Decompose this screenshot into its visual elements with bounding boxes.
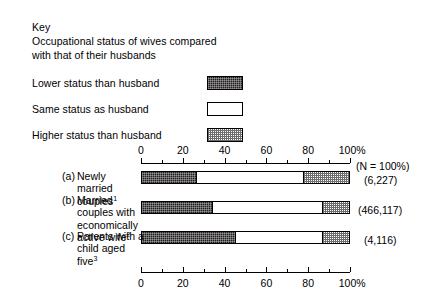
bar-segment — [142, 202, 212, 213]
axis-major-tick — [350, 267, 351, 272]
axis-line — [141, 272, 350, 273]
axis-major-tick — [141, 267, 142, 272]
axis-minor-tick — [162, 269, 163, 272]
axis-minor-tick — [329, 160, 330, 163]
bar-segment — [196, 172, 304, 183]
bar-segment — [322, 202, 349, 213]
axis-minor-tick — [246, 160, 247, 163]
row-label-text: Parents with a child aged five — [77, 230, 144, 267]
row-marker: (c) — [62, 230, 74, 242]
bar-row-b — [141, 201, 350, 214]
axis-major-tick — [266, 267, 267, 272]
axis-tick-label: 40 — [219, 144, 231, 156]
axis-major-tick — [308, 267, 309, 272]
bar-segment — [322, 232, 349, 243]
axis-major-tick — [225, 267, 226, 272]
axis-tick-label: 0 — [138, 144, 144, 156]
axis-tick-label: 100% — [339, 277, 366, 289]
row-label-c: (c) Parents with a child aged five3 — [62, 230, 148, 267]
bar-segment — [142, 172, 196, 183]
n-value-a: (6,227) — [364, 174, 397, 186]
n-header-label: (N = 100%) — [356, 160, 409, 172]
bar-segment — [303, 172, 349, 183]
axis-minor-tick — [204, 269, 205, 272]
bar-row-c — [141, 231, 350, 244]
row-marker: (b) — [62, 194, 75, 206]
axis-major-tick — [183, 267, 184, 272]
axis-minor-tick — [287, 160, 288, 163]
axis-major-tick — [183, 158, 184, 163]
axis-tick-label: 80 — [302, 144, 314, 156]
axis-minor-tick — [162, 160, 163, 163]
axis-major-tick — [350, 158, 351, 163]
axis-tick-label: 60 — [261, 277, 273, 289]
row-footnote-ref: 3 — [93, 254, 97, 261]
axis-major-tick — [266, 158, 267, 163]
axis-major-tick — [141, 158, 142, 163]
axis-tick-label: 20 — [177, 277, 189, 289]
top-axis: 020406080100% — [141, 163, 350, 164]
n-value-b: (466,117) — [358, 204, 402, 216]
axis-minor-tick — [204, 160, 205, 163]
n-value-c: (4,116) — [364, 234, 397, 246]
axis-tick-label: 40 — [219, 277, 231, 289]
bar-segment — [235, 232, 322, 243]
axis-line — [141, 163, 350, 164]
axis-major-tick — [308, 158, 309, 163]
row-marker: (a) — [62, 170, 75, 182]
bar-row-a — [141, 171, 350, 184]
axis-minor-tick — [246, 269, 247, 272]
axis-minor-tick — [287, 269, 288, 272]
axis-tick-label: 60 — [261, 144, 273, 156]
bar-segment — [212, 202, 322, 213]
axis-minor-tick — [329, 269, 330, 272]
bar-segment — [142, 232, 235, 243]
axis-tick-label: 0 — [138, 277, 144, 289]
axis-tick-label: 80 — [302, 277, 314, 289]
bottom-axis: 020406080100% — [141, 272, 350, 273]
axis-tick-label: 20 — [177, 144, 189, 156]
stacked-bar-chart: 020406080100% (N = 100%) (a) Newly marri… — [0, 0, 422, 302]
axis-tick-label: 100% — [339, 144, 366, 156]
axis-major-tick — [225, 158, 226, 163]
